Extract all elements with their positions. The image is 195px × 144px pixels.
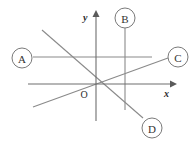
- x-axis-label: x: [163, 88, 169, 99]
- line-d-decreasing: [42, 30, 143, 118]
- label-text-c: C: [174, 52, 181, 64]
- label-text-a: A: [18, 53, 26, 65]
- label-marker-b: B: [115, 8, 135, 28]
- label-text-d: D: [148, 123, 156, 135]
- geometry-diagram-svg: y x O A B C D: [0, 0, 195, 144]
- y-axis-label: y: [82, 12, 88, 23]
- label-marker-c: C: [168, 47, 188, 67]
- coordinate-plane-figure: y x O A B C D: [0, 0, 195, 144]
- label-marker-a: A: [12, 48, 32, 68]
- y-axis-arrowhead: [93, 10, 100, 17]
- label-marker-d: D: [142, 118, 162, 138]
- line-c-increasing: [33, 58, 168, 107]
- x-axis-arrowhead: [170, 81, 177, 88]
- origin-label: O: [80, 89, 87, 100]
- label-text-b: B: [121, 13, 128, 25]
